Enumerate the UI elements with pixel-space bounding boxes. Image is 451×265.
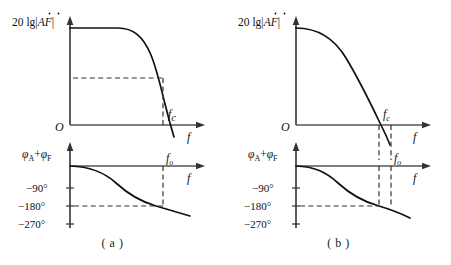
phase-y-arrow-a [67,142,74,151]
magnitude-x-arrow-a [196,122,205,129]
magnitude-origin-label-a: O [55,120,64,134]
phase-ticklabel-90-b: −90° [252,182,274,194]
phase-x-arrow-b [422,163,431,170]
magnitude-curve-a [70,28,174,137]
phase-ticklabel-90-a: −90° [26,182,48,194]
phase-fo-label-b: fo [394,151,401,167]
panel-a: 20 lg|AF| O f fc [0,0,225,265]
phase-x-arrow-a [196,163,205,170]
magnitude-x-axis-label-b: f [413,130,418,144]
phase-curve-a [70,166,190,216]
phase-ticklabel-180-b: −180° [244,200,271,212]
f-dot-accent-b [284,13,286,15]
f-dot-accent-a [58,13,60,15]
magnitude-fc-label-b: fc [383,107,390,123]
magnitude-y-label-a: 20 lg|AF| [12,16,54,29]
phase-y-label-b: φA+φF [248,148,278,163]
panel-b-svg: 20 lg|AF| O f fc [226,0,451,236]
phase-fo-label-a: fo [166,151,173,167]
magnitude-y-arrow-b [293,16,300,25]
phase-ticklabel-270-a: −270° [18,218,45,230]
magnitude-plot-a: 20 lg|AF| O f fc [12,13,205,144]
magnitude-y-arrow-a [67,16,74,25]
phase-y-arrow-b [293,142,300,151]
panel-a-caption: ( a ) [0,236,225,251]
magnitude-x-arrow-b [422,122,431,129]
phase-ticklabel-270-b: −270° [244,218,271,230]
a-dot-accent-b [275,13,277,15]
phase-plot-a: φA+φF f fo −90° −180° −270° [18,142,205,230]
phase-y-label-a: φA+φF [22,148,52,163]
magnitude-fc-label-a: fc [168,107,176,123]
magnitude-plot-b: 20 lg|AF| O f fc [238,13,431,160]
phase-x-axis-label-b: f [413,171,418,185]
magnitude-curve-b [296,28,390,145]
phase-plot-b: φA+φF f fo −90° −180° −270° [244,142,431,230]
panel-b-caption: ( b ) [226,236,451,251]
a-dot-accent-a [49,13,51,15]
phase-curve-b [296,166,410,218]
magnitude-origin-label-b: O [281,120,290,134]
magnitude-y-label-b: 20 lg|AF| [238,16,280,29]
magnitude-x-axis-label-a: f [187,130,192,144]
phase-ticklabel-180-a: −180° [18,200,45,212]
figure-canvas: 20 lg|AF| O f fc [0,0,451,265]
panel-b: 20 lg|AF| O f fc [226,0,451,265]
panel-a-svg: 20 lg|AF| O f fc [0,0,225,236]
phase-x-axis-label-a: f [187,171,192,185]
